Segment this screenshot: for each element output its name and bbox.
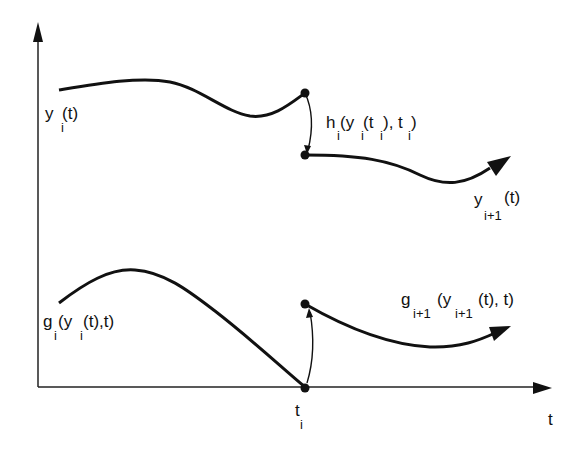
label-g-i: g i (y i (t),t): [43, 312, 114, 343]
label-y-i: y i (t): [45, 104, 78, 135]
svg-text:i: i: [300, 417, 303, 432]
label-g-i-plus-1: g i+1 (y i+1 (t), t): [401, 290, 514, 321]
x-axis-arrow-icon: [533, 382, 552, 394]
svg-text:i+1: i+1: [455, 306, 473, 321]
svg-text:(t): (t): [62, 104, 78, 123]
curve-y-i-plus-1: [305, 155, 490, 183]
jump-end-dot: [301, 151, 310, 160]
x-axis: [38, 382, 552, 394]
jump-start-dot: [301, 89, 310, 98]
jump-arrow-h-i: [305, 93, 311, 150]
svg-text:(t), t): (t), t): [478, 290, 514, 309]
diagram-canvas: y i (t) h i (y i (t i ), t i ) y i+1 (t)…: [0, 0, 584, 449]
svg-text:y: y: [45, 104, 54, 123]
curve-y-i: [59, 80, 305, 117]
label-y-i-plus-1: y i+1 (t): [474, 188, 520, 223]
svg-text:), t: ), t: [383, 113, 403, 132]
svg-text:(y: (y: [58, 312, 73, 331]
svg-text:i: i: [54, 328, 57, 343]
svg-text:h: h: [326, 113, 335, 132]
svg-text:(t: (t: [363, 113, 374, 132]
svg-text:(y: (y: [437, 290, 452, 309]
x-axis-label: t: [548, 410, 553, 429]
svg-text:i+1: i+1: [413, 306, 431, 321]
svg-text:g: g: [401, 290, 410, 309]
label-t-i: t i: [295, 401, 303, 432]
y-axis: [33, 22, 43, 387]
svg-text:g: g: [43, 312, 52, 331]
guard-jump-dot: [301, 300, 310, 309]
svg-text:i+1: i+1: [484, 208, 502, 223]
switch-time-dot: [301, 384, 310, 393]
y-axis-arrow-icon: [33, 22, 43, 42]
jump-arrow-g: [307, 312, 313, 383]
svg-text:(y: (y: [340, 113, 355, 132]
svg-text:(t): (t): [504, 188, 520, 207]
label-h-i: h i (y i (t i ), t i ): [326, 113, 417, 143]
g-i-plus-1-arrowhead-icon: [489, 326, 511, 341]
svg-text:): ): [411, 113, 417, 132]
svg-text:y: y: [474, 190, 483, 209]
y-i-plus-1-arrowhead-icon: [487, 156, 511, 176]
svg-text:(t),t): (t),t): [83, 312, 114, 331]
